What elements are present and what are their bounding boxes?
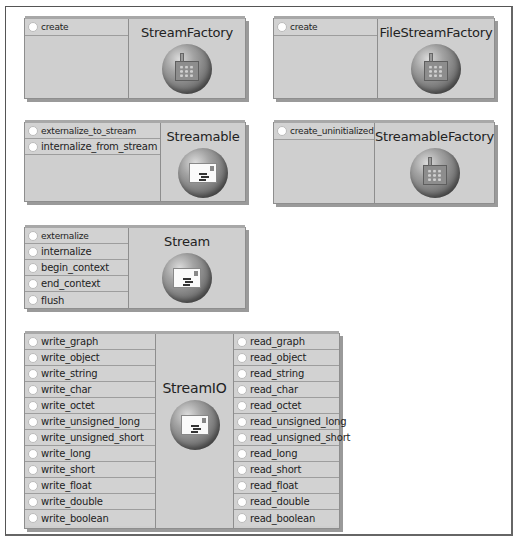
operation-row[interactable]: write_unsigned_long [25, 414, 155, 430]
operation-port-icon [237, 385, 247, 395]
operations-list: externalize internalize begin_context en… [25, 228, 129, 308]
operation-row[interactable]: write_short [25, 462, 155, 478]
operation-port-icon [28, 22, 38, 32]
envelope-icon [162, 253, 212, 303]
interface-name: StreamableFactory [375, 129, 494, 144]
interface-name: Streamable [167, 129, 240, 144]
interface-header: FileStreamFactory [378, 19, 494, 98]
operation-create[interactable]: create [274, 19, 377, 36]
operation-port-icon [277, 22, 287, 32]
operation-internalize-from-stream[interactable]: internalize_from_stream [25, 139, 160, 155]
operations-list: create [274, 19, 378, 98]
operation-port-icon [28, 481, 38, 491]
operation-port-icon [28, 401, 38, 411]
operation-port-icon [237, 369, 247, 379]
factory-icon [410, 148, 460, 198]
operation-row[interactable]: write_string [25, 366, 155, 382]
operation-port-icon [28, 385, 38, 395]
operation-end-context[interactable]: end_context [25, 276, 128, 292]
envelope-icon [178, 148, 228, 198]
operation-begin-context[interactable]: begin_context [25, 260, 128, 276]
operation-port-icon [237, 337, 247, 347]
operation-port-icon [28, 247, 38, 257]
operation-port-icon [28, 337, 38, 347]
operation-row[interactable]: read_short [234, 462, 339, 478]
operation-port-icon [28, 433, 38, 443]
interface-streamable-factory[interactable]: create_uninitialized StreamableFactory [273, 122, 495, 204]
interface-name: StreamFactory [141, 25, 233, 40]
operation-row[interactable]: read_float [234, 478, 339, 494]
operation-create-uninitialized[interactable]: create_uninitialized [274, 123, 374, 140]
operation-row[interactable]: read_char [234, 382, 339, 398]
interface-header: Streamable [161, 123, 245, 201]
interface-header: StreamableFactory [375, 123, 494, 203]
operation-row[interactable]: read_octet [234, 398, 339, 414]
operation-row[interactable]: read_object [234, 350, 339, 366]
operation-row[interactable]: write_float [25, 478, 155, 494]
operation-port-icon [28, 369, 38, 379]
operation-row[interactable]: read_unsigned_long [234, 414, 339, 430]
operation-port-icon [237, 497, 247, 507]
operation-row[interactable]: write_boolean [25, 510, 155, 526]
operations-list: create [25, 19, 129, 98]
write-operations-list: write_graphwrite_objectwrite_stringwrite… [25, 334, 156, 528]
factory-icon [411, 44, 461, 94]
interface-streamable[interactable]: externalize_to_stream internalize_from_s… [24, 122, 246, 202]
operation-port-icon [28, 513, 38, 523]
operation-row[interactable]: write_object [25, 350, 155, 366]
operation-port-icon [28, 465, 38, 475]
operation-port-icon [28, 449, 38, 459]
operation-row[interactable]: write_unsigned_short [25, 430, 155, 446]
interface-file-stream-factory[interactable]: create FileStreamFactory [273, 18, 495, 99]
operation-port-icon [237, 449, 247, 459]
operation-port-icon [237, 353, 247, 363]
interface-stream[interactable]: externalize internalize begin_context en… [24, 227, 246, 309]
operations-list: externalize_to_stream internalize_from_s… [25, 123, 161, 201]
operation-port-icon [237, 433, 247, 443]
interface-header: Stream [129, 228, 245, 308]
operation-port-icon [28, 279, 38, 289]
operation-create[interactable]: create [25, 19, 128, 36]
operation-port-icon [28, 295, 38, 305]
operation-row[interactable]: write_long [25, 446, 155, 462]
operation-row[interactable]: read_string [234, 366, 339, 382]
interface-name: StreamIO [162, 380, 226, 396]
operation-row[interactable]: read_unsigned_short [234, 430, 339, 446]
interface-header: StreamFactory [129, 19, 245, 98]
operation-port-icon [237, 465, 247, 475]
operation-port-icon [28, 417, 38, 427]
factory-icon [162, 44, 212, 94]
operation-port-icon [28, 497, 38, 507]
operation-port-icon [28, 142, 38, 152]
operation-port-icon [28, 353, 38, 363]
operation-row[interactable]: read_boolean [234, 510, 339, 526]
operation-port-icon [237, 481, 247, 491]
interface-stream-io[interactable]: write_graphwrite_objectwrite_stringwrite… [24, 333, 340, 529]
operation-row[interactable]: write_octet [25, 398, 155, 414]
operation-port-icon [237, 417, 247, 427]
operation-port-icon [28, 231, 38, 241]
operation-row[interactable]: read_graph [234, 334, 339, 350]
operation-port-icon [277, 126, 287, 136]
operations-list: create_uninitialized [274, 123, 375, 203]
interface-header: StreamIO [156, 334, 233, 528]
operation-row[interactable]: write_char [25, 382, 155, 398]
operation-row[interactable]: write_graph [25, 334, 155, 350]
operation-row[interactable]: write_double [25, 494, 155, 510]
operation-port-icon [28, 263, 38, 273]
operation-port-icon [28, 126, 38, 136]
operation-flush[interactable]: flush [25, 292, 128, 308]
operation-externalize-to-stream[interactable]: externalize_to_stream [25, 123, 160, 139]
operation-row[interactable]: read_double [234, 494, 339, 510]
interface-stream-factory[interactable]: create StreamFactory [24, 18, 246, 99]
operation-port-icon [237, 513, 247, 523]
operation-port-icon [237, 401, 247, 411]
operation-externalize[interactable]: externalize [25, 228, 128, 244]
interface-name: Stream [164, 234, 210, 249]
envelope-icon [170, 400, 220, 450]
operation-row[interactable]: read_long [234, 446, 339, 462]
operation-internalize[interactable]: internalize [25, 244, 128, 260]
read-operations-list: read_graphread_objectread_stringread_cha… [233, 334, 339, 528]
interface-name: FileStreamFactory [380, 25, 493, 40]
